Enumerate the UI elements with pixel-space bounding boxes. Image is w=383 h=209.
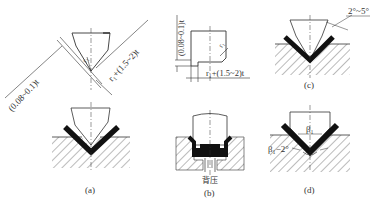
angle-top-label-d: β₁ bbox=[306, 124, 314, 134]
caption-d: (d) bbox=[304, 185, 315, 195]
panel-b-die bbox=[176, 110, 244, 175]
bending-die-diagram: (0.08~0.1)t r₁+(1.5~2)t r₁ (a) (0.08~0.1… bbox=[0, 0, 383, 209]
dim-length-label: r₁+(1.5~2)t bbox=[106, 47, 141, 84]
angle-label-c: 2°~5° bbox=[348, 6, 369, 16]
radius-label-b: r₁ bbox=[217, 41, 226, 49]
caption-c: (c) bbox=[304, 80, 314, 90]
dim-horizontal-label: r₁+(1.5~2)t bbox=[206, 68, 245, 78]
dim-vertical-gap-label: (0.08~0.1)t bbox=[177, 19, 186, 56]
caption-b: (b) bbox=[204, 188, 215, 198]
angle-side-label-d: β₁−2° bbox=[268, 144, 289, 154]
panel-d-die bbox=[270, 105, 350, 172]
panel-c-die bbox=[275, 15, 370, 78]
back-pressure-label: 背压 bbox=[202, 175, 218, 185]
dim-gap-label: (0.08~0.1)t bbox=[6, 77, 41, 114]
caption-a: (a) bbox=[85, 185, 95, 195]
panel-a-die bbox=[52, 102, 130, 170]
